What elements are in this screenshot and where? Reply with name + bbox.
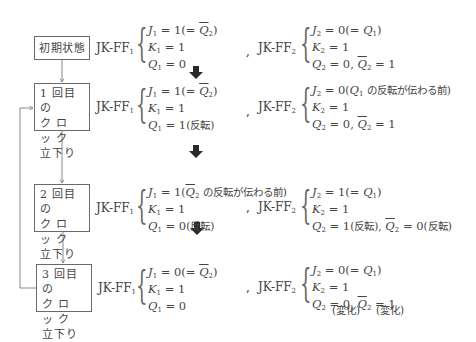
equation-line: K1 = 1	[148, 283, 218, 300]
state-box: 2 回目のク ロ ッ ク立下り	[34, 184, 90, 232]
variable: J1	[148, 265, 157, 279]
variable-letter: Q	[385, 219, 394, 233]
note-close: の反転が伝わる前)	[363, 84, 450, 96]
equation-line: K2 = 1	[312, 281, 396, 298]
equation-line: J1 = 1(= Q2)	[148, 24, 218, 41]
variable: Q1	[148, 118, 162, 132]
note-variable: Q2	[199, 265, 213, 279]
equation-value: = 1	[325, 100, 349, 114]
equation-value: = 0,	[326, 57, 354, 71]
equation-value: = 0	[157, 265, 181, 279]
equation-line: K2 = 1	[312, 101, 451, 118]
variable: K1	[148, 40, 161, 54]
ff-subscript: 1	[130, 208, 134, 216]
variable: K2	[312, 40, 325, 54]
variable: Q1	[148, 299, 162, 313]
ff1-label: JK-FF1	[96, 41, 134, 56]
ff-subscript: 2	[292, 287, 296, 295]
equation-value: = 1	[157, 84, 181, 98]
equation-value: = 1	[161, 202, 185, 216]
ff2-brace: {	[300, 262, 311, 302]
ff-name: JK-FF	[258, 100, 292, 114]
variable-letter: Q	[357, 57, 366, 71]
ff-subscript: 2	[292, 207, 296, 215]
equation-value: = 1	[371, 57, 395, 71]
variable: J2	[312, 23, 321, 37]
equation-value: = 0	[321, 23, 345, 37]
equation-value: = 0,	[326, 117, 354, 131]
variable-letter: Q	[363, 185, 372, 199]
ff2-equations: J2 = 0(Q1 の反転が伝わる前)K2 = 1Q2 = 0, Q2 = 1	[312, 84, 451, 135]
equation-value: = 0	[399, 219, 423, 233]
note-variable: Q1	[363, 23, 377, 37]
variable-letter: K	[148, 282, 157, 296]
ff1-equations: J1 = 0(= Q2)K1 = 1Q1 = 0	[148, 266, 218, 317]
equation-note: (反転),	[350, 220, 382, 232]
state-label-line: 1 回目の	[40, 86, 84, 116]
ff-name: JK-FF	[96, 201, 130, 215]
note-close: の反転が伝わる前)	[199, 186, 286, 198]
ff1-label: JK-FF1	[98, 281, 136, 296]
equation-note: (反転)	[186, 119, 214, 131]
variable: J2	[312, 83, 321, 97]
ff-name: JK-FF	[98, 281, 132, 295]
variable-letter: K	[312, 280, 321, 294]
state-label-line: 3 回目の	[42, 267, 86, 297]
ff-subscript: 2	[292, 107, 296, 115]
note-close: )	[213, 84, 218, 98]
note-close: )	[377, 263, 382, 277]
variable: K1	[148, 282, 161, 296]
ff-name: JK-FF	[258, 280, 292, 294]
variable-letter: Q	[357, 117, 366, 131]
variable-letter: Q	[363, 263, 372, 277]
variable-letter: Q	[199, 23, 208, 37]
ff2-brace: {	[300, 82, 311, 122]
equation-value: = 1	[371, 117, 395, 131]
variable-letter: Q	[199, 84, 208, 98]
state-label-line: ク ロ ッ ク	[40, 116, 84, 146]
equation-value: = 1	[325, 40, 349, 54]
note-variable: Q2	[199, 84, 213, 98]
equation-line: J1 = 0(= Q2)	[148, 266, 218, 283]
note-close: )	[213, 23, 218, 37]
note-open: (=	[345, 263, 363, 277]
equation-line: K2 = 1	[312, 203, 452, 220]
ff-name: JK-FF	[258, 200, 292, 214]
equation-value: = 1	[325, 202, 349, 216]
note-open: (=	[181, 23, 199, 37]
state-label-line: 立下り	[42, 327, 86, 342]
variable: K2	[312, 280, 325, 294]
separator-comma: ,	[246, 200, 250, 214]
ff2-equations: J2 = 1(= Q1)K2 = 1Q2 = 1(反転), Q2 = 0(反転)	[312, 186, 452, 237]
variable-letter: Q	[349, 83, 358, 97]
ff2-brace: {	[300, 22, 311, 62]
equation-line: Q2 = 0, Q2 = 1	[312, 118, 451, 135]
variable: Q1	[148, 57, 162, 71]
ff-subscript: 1	[130, 107, 134, 115]
variable-letter: K	[148, 40, 157, 54]
equation-note: (反転)	[186, 220, 214, 232]
variable-letter: K	[148, 202, 157, 216]
ff2-equations: J2 = 0(= Q1)K2 = 1Q2 = 0, Q2 = 1	[312, 24, 396, 75]
equation-line: K2 = 1	[312, 41, 396, 58]
note-open: (=	[181, 265, 199, 279]
equation-value: = 0	[162, 299, 186, 313]
state-label-line: 立下り	[40, 247, 84, 262]
equation-value: = 1	[326, 219, 350, 233]
equation-line: J1 = 1(= Q2)	[148, 85, 218, 102]
ff1-label: JK-FF1	[96, 201, 134, 216]
variable: Q2	[312, 57, 326, 71]
ff1-brace: {	[136, 83, 147, 123]
note-variable: Q1	[349, 83, 363, 97]
ff2-label: JK-FF2	[258, 41, 296, 56]
ff1-equations: J1 = 1(= Q2)K1 = 1Q1 = 1(反転)	[148, 85, 218, 136]
variable-letter: K	[312, 40, 321, 54]
equation-value: = 1	[161, 101, 185, 115]
variable-letter: Q	[185, 185, 194, 199]
q-bar-variable: Q2	[357, 117, 371, 131]
equation-line: Q1 = 1(反転)	[148, 119, 218, 136]
variable: K1	[148, 101, 161, 115]
note-open: (=	[345, 185, 363, 199]
equation-value: = 1	[161, 282, 185, 296]
equation-value: = 0	[321, 263, 345, 277]
